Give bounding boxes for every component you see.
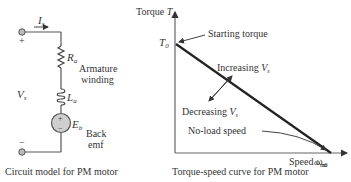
increasing-vs-label: Increasing Vs <box>217 62 270 74</box>
resistor-label: Ra <box>66 51 78 65</box>
armature-label-2: winding <box>81 74 114 85</box>
starting-torque-label: Starting torque <box>208 28 268 39</box>
plus-terminal-sign: + <box>19 35 25 46</box>
no-load-speed-arrow <box>262 131 326 150</box>
source-minus: − <box>58 124 63 133</box>
source-label: Eb <box>71 118 83 132</box>
figure: Is + Ra Armature winding La + − Eb Back … <box>0 0 351 182</box>
t0-label: T0 <box>159 36 169 50</box>
chart-caption: Torque-speed curve for PM motor <box>172 166 309 177</box>
no-load-speed-label: No-load speed <box>188 125 246 136</box>
torque-speed-chart: Torque T Speed ωm T0 ωm0 Starting torque… <box>136 6 347 177</box>
inductor <box>57 89 65 105</box>
inductor-label: La <box>66 91 77 105</box>
current-label: Is <box>37 14 45 28</box>
bottom-terminal <box>19 149 25 155</box>
emf-label: emf <box>88 139 104 150</box>
voltage-label: Vs <box>17 88 27 102</box>
decreasing-vs-label: Decreasing Vs <box>182 106 239 118</box>
minus-terminal-sign: − <box>19 137 25 148</box>
increasing-vs-arrow <box>209 76 232 101</box>
torque-speed-line <box>176 44 331 153</box>
circuit-model: Is + Ra Armature winding La + − Eb Back … <box>5 14 118 177</box>
circuit-caption: Circuit model for PM motor <box>5 166 118 177</box>
source-plus: + <box>58 114 63 123</box>
armature-label-1: Armature <box>79 63 118 74</box>
y-axis-label: Torque T <box>136 6 174 17</box>
resistor <box>58 46 64 68</box>
starting-torque-arrow <box>179 35 205 42</box>
back-label: Back <box>86 128 107 139</box>
